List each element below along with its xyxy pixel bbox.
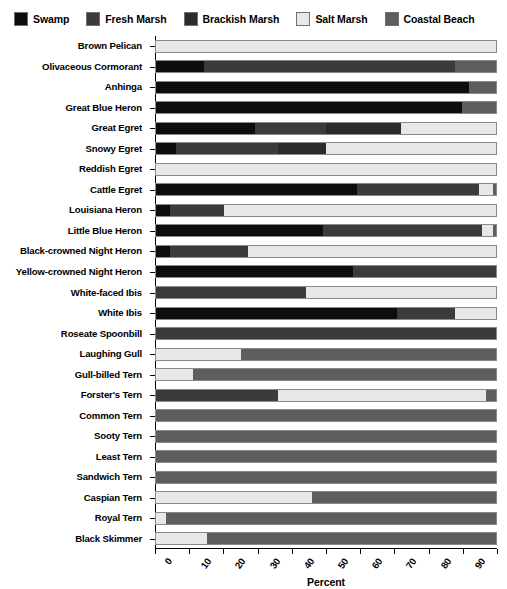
bar-row[interactable] <box>155 430 497 443</box>
stacked-bar-chart: SwampFresh MarshBrackish MarshSalt Marsh… <box>0 0 507 589</box>
bar-row[interactable] <box>155 204 497 217</box>
bar-segment[interactable] <box>401 123 496 134</box>
bar-segment[interactable] <box>326 123 401 134</box>
bar-segment[interactable] <box>312 492 496 503</box>
bar-segment[interactable] <box>278 390 485 401</box>
bar-segment[interactable] <box>224 205 496 216</box>
bar-row[interactable] <box>155 348 497 361</box>
bar-row[interactable] <box>155 183 497 196</box>
bar-segment[interactable] <box>156 184 357 195</box>
bar-row[interactable] <box>155 40 497 53</box>
bar-segment[interactable] <box>323 225 483 236</box>
bar-segment[interactable] <box>156 82 469 93</box>
bar-segment[interactable] <box>156 472 496 483</box>
bar-segment[interactable] <box>170 205 224 216</box>
bar-row[interactable] <box>155 81 497 94</box>
bar-segment[interactable] <box>204 61 456 72</box>
x-axis-tick-label: 30 <box>267 556 282 571</box>
bar-segment[interactable] <box>156 308 397 319</box>
bar-segment[interactable] <box>455 61 496 72</box>
bar-segment[interactable] <box>455 308 496 319</box>
bar-segment[interactable] <box>469 82 496 93</box>
bar-segment[interactable] <box>156 328 496 339</box>
bar-row[interactable] <box>155 286 497 299</box>
bar-row[interactable] <box>155 60 497 73</box>
bar-segment[interactable] <box>353 266 496 277</box>
bar-segment[interactable] <box>306 287 496 298</box>
bar-segment[interactable] <box>156 225 323 236</box>
bar-segment[interactable] <box>156 61 204 72</box>
bar-row[interactable] <box>155 368 497 381</box>
bar-segment[interactable] <box>493 225 496 236</box>
bar-row[interactable] <box>155 265 497 278</box>
bar-segment[interactable] <box>156 246 170 257</box>
bar-row[interactable] <box>155 389 497 402</box>
bar-row[interactable] <box>155 101 497 114</box>
y-axis-tick <box>150 272 155 273</box>
bar-segment[interactable] <box>156 266 353 277</box>
bar-track <box>155 101 497 114</box>
bar-segment[interactable] <box>482 225 492 236</box>
bar-row[interactable] <box>155 512 497 525</box>
y-axis-label: Common Tern <box>0 411 148 421</box>
bar-segment[interactable] <box>357 184 479 195</box>
bar-segment[interactable] <box>166 513 496 524</box>
bar-segment[interactable] <box>156 410 496 421</box>
bar-segment[interactable] <box>170 246 248 257</box>
bar-segment[interactable] <box>207 533 496 544</box>
bar-segment[interactable] <box>156 492 312 503</box>
y-axis-tick <box>150 149 155 150</box>
bar-segment[interactable] <box>397 308 455 319</box>
y-axis-tick <box>150 539 155 540</box>
bar-track <box>155 327 497 340</box>
legend-entry: Coastal Beach <box>385 12 475 26</box>
bar-track <box>155 81 497 94</box>
bar-segment[interactable] <box>486 390 496 401</box>
bar-row[interactable] <box>155 307 497 320</box>
bar-segment[interactable] <box>156 205 170 216</box>
bar-segment[interactable] <box>156 451 496 462</box>
bar-segment[interactable] <box>156 369 193 380</box>
bar-segment[interactable] <box>193 369 496 380</box>
bar-row[interactable] <box>155 122 497 135</box>
y-axis-tick <box>150 436 155 437</box>
bar-segment[interactable] <box>479 184 493 195</box>
legend-swatch-icon <box>14 12 28 26</box>
legend-label: Swamp <box>33 14 69 25</box>
bar-segment[interactable] <box>156 287 306 298</box>
bar-segment[interactable] <box>248 246 496 257</box>
bar-row[interactable] <box>155 245 497 258</box>
bar-segment[interactable] <box>493 184 496 195</box>
bar-segment[interactable] <box>241 349 496 360</box>
bar-segment[interactable] <box>156 143 176 154</box>
bar-segment[interactable] <box>156 102 462 113</box>
legend-swatch-icon <box>86 12 100 26</box>
bar-segment[interactable] <box>156 431 496 442</box>
bar-segment[interactable] <box>156 164 496 175</box>
bar-row[interactable] <box>155 327 497 340</box>
bar-row[interactable] <box>155 142 497 155</box>
bar-segment[interactable] <box>156 533 207 544</box>
bar-row[interactable] <box>155 450 497 463</box>
bar-segment[interactable] <box>156 513 166 524</box>
y-axis-label: Caspian Tern <box>0 493 148 503</box>
bar-row[interactable] <box>155 163 497 176</box>
bar-segment[interactable] <box>255 123 326 134</box>
bar-row[interactable] <box>155 471 497 484</box>
legend-label: Coastal Beach <box>404 14 475 25</box>
bar-track <box>155 512 497 525</box>
bar-track <box>155 532 497 545</box>
bar-segment[interactable] <box>156 349 241 360</box>
bar-segment[interactable] <box>156 41 496 52</box>
bar-segment[interactable] <box>462 102 496 113</box>
bar-row[interactable] <box>155 491 497 504</box>
bar-row[interactable] <box>155 224 497 237</box>
bar-row[interactable] <box>155 409 497 422</box>
bar-row[interactable] <box>155 532 497 545</box>
bar-segment[interactable] <box>176 143 278 154</box>
bar-segment[interactable] <box>278 143 326 154</box>
bar-segment[interactable] <box>156 390 278 401</box>
bar-segment[interactable] <box>156 123 255 134</box>
bar-segment[interactable] <box>326 143 496 154</box>
x-axis-tick <box>155 549 156 554</box>
